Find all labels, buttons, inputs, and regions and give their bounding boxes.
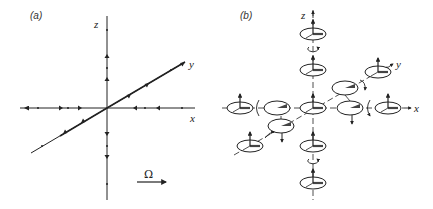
rotation-arrow-icon (360, 80, 365, 90)
y-axis-label: y (188, 58, 194, 70)
disc-icon (332, 81, 358, 95)
disc-icon (300, 132, 326, 152)
disc-icon (365, 58, 391, 78)
omega-label: Ω (144, 168, 153, 181)
y-axis-label: y (395, 58, 401, 70)
disc-icon (227, 94, 253, 114)
panel-b: (b) z x y (222, 9, 419, 200)
disc-icon (237, 132, 263, 152)
disc-icon (337, 101, 363, 115)
x-axis-label: x (189, 112, 195, 124)
disc-icon (300, 20, 326, 40)
z-axis-label: z (93, 18, 99, 30)
z-axis-label: z (300, 9, 306, 21)
disc-icon (300, 56, 326, 76)
panel-b-label: (b) (240, 10, 252, 21)
disc-icon (300, 94, 326, 114)
panel-a: (a) x z (20, 10, 195, 200)
disc-icon (375, 94, 401, 114)
disc-icon (264, 101, 290, 115)
disc-icon (300, 169, 326, 189)
panel-a-label: (a) (30, 10, 42, 21)
x-axis-label: x (413, 102, 419, 114)
figure: (a) x z (0, 0, 433, 209)
disc-icon (268, 119, 294, 133)
